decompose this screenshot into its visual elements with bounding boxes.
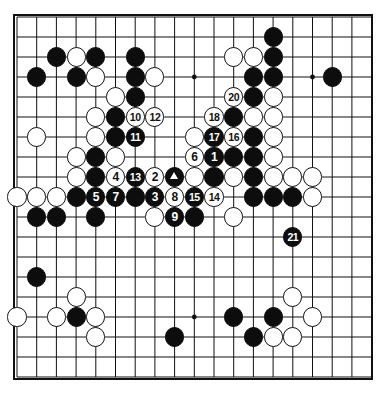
stone-white bbox=[303, 167, 322, 186]
stone-white bbox=[264, 127, 283, 146]
stone-black bbox=[67, 67, 86, 86]
stone-black bbox=[67, 307, 86, 326]
stone-black bbox=[264, 187, 283, 206]
stone-black bbox=[86, 207, 105, 226]
stone-black bbox=[126, 187, 145, 206]
stone-white bbox=[264, 167, 283, 186]
stone-white bbox=[86, 307, 105, 326]
stone-white bbox=[283, 327, 302, 346]
stone-white bbox=[67, 167, 86, 186]
stone-white bbox=[47, 187, 66, 206]
stone-white bbox=[224, 207, 243, 226]
stone-white bbox=[264, 107, 283, 126]
stone-white bbox=[185, 127, 204, 146]
stone-black bbox=[86, 47, 105, 66]
stone-black bbox=[126, 47, 145, 66]
stone-black bbox=[67, 187, 86, 206]
stone-white bbox=[264, 327, 283, 346]
stone-black bbox=[264, 27, 283, 46]
move-number-4: 4 bbox=[106, 167, 125, 186]
stone-black bbox=[86, 147, 105, 166]
stone-white bbox=[86, 67, 105, 86]
stone-black bbox=[244, 67, 263, 86]
stone-black bbox=[283, 187, 302, 206]
stone-black bbox=[27, 207, 46, 226]
stone-white bbox=[67, 47, 86, 66]
stone-white bbox=[264, 87, 283, 106]
stone-white bbox=[224, 167, 243, 186]
stone-white bbox=[283, 287, 302, 306]
stone-white bbox=[86, 127, 105, 146]
stone-white bbox=[47, 307, 66, 326]
stone-white bbox=[244, 107, 263, 126]
go-diagram: 2010121811171661413257381514921 bbox=[0, 0, 386, 394]
stone-white bbox=[224, 47, 243, 66]
move-number-15: 15 bbox=[185, 187, 204, 206]
move-number-9: 9 bbox=[165, 207, 184, 226]
stone-white bbox=[283, 167, 302, 186]
triangle-mark-icon bbox=[170, 172, 178, 179]
stone-black bbox=[126, 67, 145, 86]
stone-black bbox=[224, 147, 243, 166]
move-number-21: 21 bbox=[283, 227, 302, 246]
stone-black bbox=[264, 47, 283, 66]
move-number-18: 18 bbox=[204, 107, 223, 126]
move-number-13: 13 bbox=[126, 167, 145, 186]
move-number-10: 10 bbox=[126, 107, 145, 126]
move-number-8: 8 bbox=[165, 187, 184, 206]
move-number-20: 20 bbox=[224, 87, 243, 106]
stone-black bbox=[244, 87, 263, 106]
stone-black bbox=[86, 167, 105, 186]
stone-white bbox=[244, 47, 263, 66]
stone-black bbox=[264, 307, 283, 326]
stone-black bbox=[27, 67, 46, 86]
stone-white bbox=[264, 147, 283, 166]
move-number-6: 6 bbox=[185, 147, 204, 166]
stone-white bbox=[67, 287, 86, 306]
stone-white bbox=[303, 307, 322, 326]
stone-white bbox=[303, 187, 322, 206]
move-number-5: 5 bbox=[86, 187, 105, 206]
stone-white bbox=[106, 87, 125, 106]
stone-white bbox=[67, 147, 86, 166]
move-number-1: 1 bbox=[204, 147, 223, 166]
stone-white bbox=[27, 187, 46, 206]
stone-white bbox=[145, 67, 164, 86]
stone-black bbox=[106, 107, 125, 126]
stone-white bbox=[86, 327, 105, 346]
move-number-7: 7 bbox=[106, 187, 125, 206]
move-number-2: 2 bbox=[145, 167, 164, 186]
stone-white bbox=[7, 307, 26, 326]
move-number-11: 11 bbox=[126, 127, 145, 146]
stone-layer: 2010121811171661413257381514921 bbox=[0, 0, 386, 394]
stone-black bbox=[126, 87, 145, 106]
stone-black bbox=[185, 207, 204, 226]
stone-black bbox=[224, 107, 243, 126]
stone-black bbox=[244, 127, 263, 146]
move-number-14: 14 bbox=[204, 187, 223, 206]
stone-black bbox=[204, 167, 223, 186]
stone-black bbox=[27, 267, 46, 286]
stone-black bbox=[224, 307, 243, 326]
stone-black bbox=[244, 147, 263, 166]
stone-black bbox=[106, 127, 125, 146]
stone-white bbox=[7, 187, 26, 206]
stone-black bbox=[244, 187, 263, 206]
stone-black bbox=[47, 47, 66, 66]
stone-white bbox=[106, 147, 125, 166]
stone-black bbox=[323, 67, 342, 86]
stone-black bbox=[165, 327, 184, 346]
stone-white bbox=[145, 207, 164, 226]
stone-black bbox=[47, 207, 66, 226]
stone-black bbox=[244, 327, 263, 346]
move-number-16: 16 bbox=[224, 127, 243, 146]
stone-black bbox=[264, 67, 283, 86]
stone-white bbox=[185, 167, 204, 186]
stone-black bbox=[244, 167, 263, 186]
move-number-3: 3 bbox=[145, 187, 164, 206]
move-number-12: 12 bbox=[145, 107, 164, 126]
stone-white bbox=[86, 107, 105, 126]
move-number-17: 17 bbox=[204, 127, 223, 146]
stone-white bbox=[27, 127, 46, 146]
